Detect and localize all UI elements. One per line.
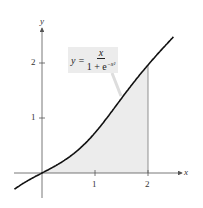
y-axis-label: y [40,16,44,26]
y-tick-label-1: 1 [31,112,36,122]
x-tick-label-1: 1 [92,179,97,189]
equation-denominator: 1 + e−x² [87,59,116,72]
shaded-area [42,65,148,173]
label-pointer [112,73,121,96]
denominator-base: 1 + e [87,61,107,72]
denominator-exponent: −x² [107,61,116,67]
equation-label: y = x 1 + e−x² [68,47,118,73]
graph-canvas [0,0,203,208]
x-tick-label-2: 2 [145,179,150,189]
equation-lhs: y = [71,55,85,66]
x-axis-label: x [184,167,188,177]
y-tick-label-2: 2 [31,57,36,67]
equation-fraction: x 1 + e−x² [87,48,116,72]
equation-numerator: x [97,48,105,59]
